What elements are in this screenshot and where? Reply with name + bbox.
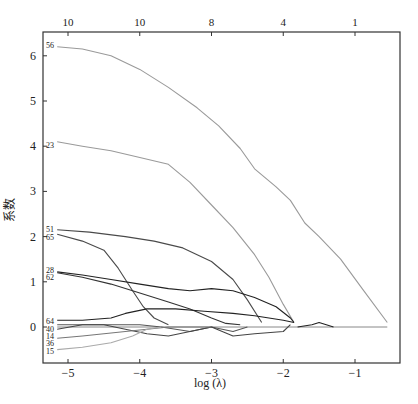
coef-path-15: [57, 327, 161, 350]
coef-path-62: [57, 273, 240, 325]
top-tick-label: 1: [352, 16, 358, 28]
y-tick-label: 6: [30, 49, 36, 63]
y-axis-title: 系数: [2, 198, 17, 222]
coef-path-64: [57, 309, 294, 323]
coef-path-36: [57, 327, 211, 338]
top-tick-label: 10: [134, 16, 146, 28]
plot-frame: [43, 32, 400, 363]
lasso-path-chart: 1010841 −5−4−3−2−1 0123456 5623516528626…: [0, 0, 418, 404]
curve-label-56: 56: [46, 41, 54, 50]
y-tick-label: 4: [30, 139, 36, 153]
y-tick-label: 3: [30, 184, 36, 198]
top-tick-label: 8: [209, 16, 215, 28]
x-tick-label: −5: [62, 366, 75, 380]
y-tick-label: 2: [30, 230, 36, 244]
y-axis: 0123456: [30, 49, 47, 334]
x-tick-label: −1: [349, 366, 362, 380]
x-tick-label: −2: [277, 366, 290, 380]
coef-path-56: [57, 47, 387, 323]
y-tick-label: 1: [30, 275, 36, 289]
top-axis: 1010841: [63, 16, 358, 36]
x-axis-title: log (λ): [194, 376, 226, 390]
plot-curves: [57, 47, 387, 350]
top-tick-label: 4: [281, 16, 287, 28]
curve-labels: 5623516528626440143615: [46, 41, 54, 356]
curve-label-65: 65: [46, 233, 54, 242]
curve-label-15: 15: [46, 347, 54, 356]
top-tick-label: 10: [63, 16, 75, 28]
y-tick-label: 5: [30, 94, 36, 108]
coef-path-14: [57, 325, 290, 336]
coef-path-short-peak: [298, 323, 334, 328]
curve-label-23: 23: [46, 141, 54, 150]
y-tick-label: 0: [30, 320, 36, 334]
curve-label-62: 62: [46, 273, 54, 282]
x-tick-label: −4: [133, 366, 146, 380]
